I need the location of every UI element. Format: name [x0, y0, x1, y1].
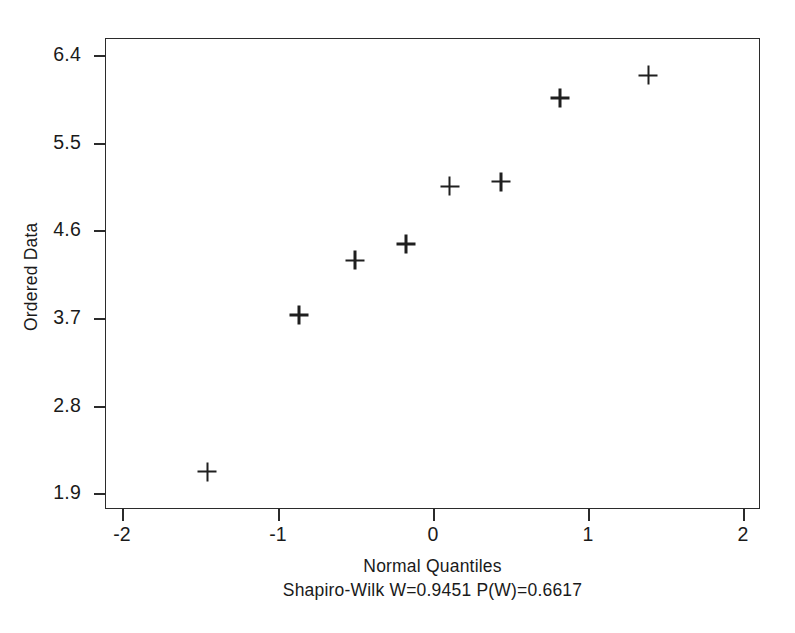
x-tick-label: -1 [248, 525, 308, 545]
x-tick-label: 0 [403, 525, 463, 545]
y-tick-label: 1.9 [21, 483, 81, 503]
y-tick-mark [94, 493, 106, 495]
x-tick-label: 1 [558, 525, 618, 545]
y-tick-mark [94, 55, 106, 57]
y-tick-mark [94, 230, 106, 232]
y-tick-mark [94, 406, 106, 408]
x-tick-mark [743, 509, 745, 521]
x-tick-mark [122, 509, 124, 521]
y-tick-mark [94, 318, 106, 320]
y-axis-title: Ordered Data [23, 187, 41, 367]
shapiro-wilk-caption: Shapiro-Wilk W=0.9451 P(W)=0.6617 [105, 581, 760, 600]
qq-plot-figure: 6.4 5.5 4.6 3.7 2.8 1.9 -2 -1 0 1 2 Orde… [0, 0, 795, 633]
plot-area-frame [105, 38, 760, 509]
y-tick-label: 5.5 [21, 133, 81, 153]
y-tick-label: 2.8 [21, 396, 81, 416]
x-tick-mark [278, 509, 280, 521]
x-tick-mark [588, 509, 590, 521]
x-tick-label: 2 [713, 525, 773, 545]
x-tick-label: -2 [92, 525, 152, 545]
x-tick-mark [433, 509, 435, 521]
y-tick-mark [94, 143, 106, 145]
y-tick-label: 6.4 [21, 45, 81, 65]
x-axis-title: Normal Quantiles [105, 557, 760, 576]
